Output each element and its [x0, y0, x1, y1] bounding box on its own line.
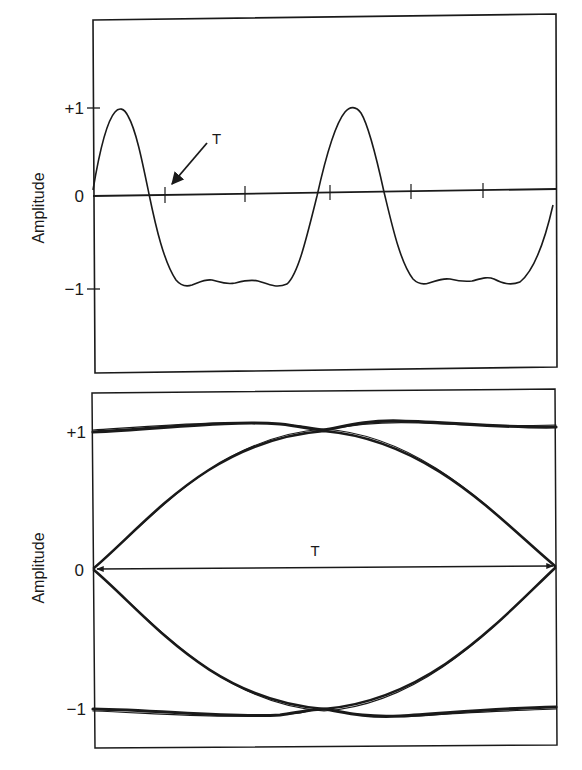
top-ylabel: Amplitude — [30, 172, 47, 243]
bottom-ytick-label-zero: 0 — [75, 561, 84, 580]
eye-lower-lens — [94, 568, 555, 709]
top-ytick-label-minus1: −1 — [65, 280, 84, 299]
figure-canvas: T +1 0 −1 Amplitude T +1 0 −1 Amplitude — [0, 0, 582, 770]
bottom-ytick-label-plus1: +1 — [67, 423, 86, 442]
bottom-ylabel: Amplitude — [30, 532, 47, 603]
top-panel — [87, 14, 557, 373]
top-zero-axis — [93, 189, 556, 196]
top-ytick-label-zero: 0 — [75, 187, 84, 206]
top-panel-frame — [93, 14, 557, 373]
top-waveform — [93, 108, 553, 286]
top-T-arrow — [172, 143, 207, 184]
bottom-annotation-T: T — [310, 542, 319, 559]
bottom-ytick-label-minus1: −1 — [67, 700, 86, 719]
top-annotation-T: T — [212, 130, 221, 147]
bottom-panel — [92, 389, 557, 748]
bottom-T-span-arrow — [97, 566, 553, 569]
top-ytick-label-plus1: +1 — [65, 99, 84, 118]
eye-upper-lens — [94, 431, 555, 568]
